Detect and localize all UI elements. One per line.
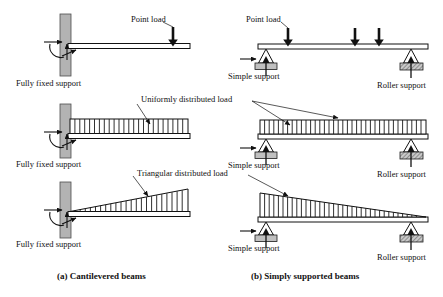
triangular-load-2	[260, 193, 426, 217]
simple-point-load-leader-1	[281, 22, 288, 28]
label-roller-support-1: Roller support	[377, 81, 426, 90]
label-roller-support-3: Roller support	[377, 253, 426, 262]
label-simple-support-3: Simple support	[228, 244, 280, 253]
label-simple-support-2: Simple support	[228, 161, 280, 170]
cantilever-beam-2	[68, 134, 190, 139]
label-roller-support-2: Roller support	[377, 170, 426, 179]
triangular-leader-left	[133, 176, 148, 196]
label-point-load-simple: Point load	[246, 15, 281, 24]
label-fully-fixed-support-1: Fully fixed support	[16, 79, 81, 88]
label-point-load-cantilever: Point load	[131, 15, 166, 24]
triangular-leader-right	[248, 175, 288, 196]
label-fully-fixed-support-2: Fully fixed support	[16, 160, 81, 169]
caption-a: (a) Cantilevered beams	[57, 272, 146, 281]
label-uniformly-distributed-load: Uniformly distributed load	[141, 95, 232, 104]
label-simple-support-1: Simple support	[228, 72, 280, 81]
simple-beam-1	[258, 44, 428, 49]
roller-support-2	[400, 139, 423, 167]
simple-beam-3	[258, 217, 428, 222]
cantilever-beam-3	[68, 212, 190, 217]
roller-support-1	[400, 49, 423, 78]
simple-beam-2	[258, 134, 428, 139]
label-triangular-distributed-load: Triangular distributed load	[137, 169, 228, 178]
triangular-load-1	[70, 189, 188, 212]
udl-block-1	[70, 119, 188, 134]
caption-b: (b) Simply supported beams	[251, 272, 359, 281]
beam-loading-figure: Point load Fully fixed support Uniformly…	[0, 0, 443, 297]
label-fully-fixed-support-3: Fully fixed support	[16, 240, 81, 249]
fixed-wall-group-2	[60, 104, 71, 158]
roller-support-3	[400, 222, 423, 250]
